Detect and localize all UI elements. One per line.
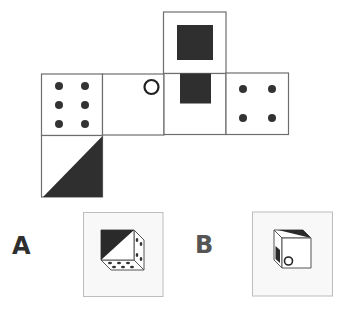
option-a[interactable] — [84, 213, 164, 297]
cube-net — [42, 12, 289, 197]
cube-b — [274, 230, 311, 268]
net-face-triangle — [42, 136, 103, 198]
net-face-six-dots — [42, 74, 103, 136]
net-face-four-dots — [226, 73, 289, 135]
option-a-label: A — [12, 234, 31, 258]
net-face-black-rectangle — [164, 74, 226, 135]
option-b-label: B — [195, 233, 213, 257]
cube-a — [101, 230, 144, 270]
option-b[interactable] — [253, 212, 333, 296]
net-face-circle — [103, 74, 165, 135]
cube-puzzle: A B — [0, 0, 344, 314]
black-rectangle-icon — [180, 74, 211, 104]
puzzle-canvas — [0, 0, 344, 314]
net-face-black-square — [164, 12, 227, 74]
black-square-icon — [177, 25, 213, 60]
